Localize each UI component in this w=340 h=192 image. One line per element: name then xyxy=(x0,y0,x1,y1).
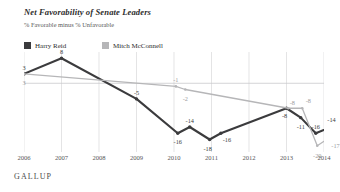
data-label: -16 xyxy=(223,136,231,143)
data-point[interactable] xyxy=(188,125,191,128)
data-point[interactable] xyxy=(301,107,304,110)
data-label: -8 xyxy=(282,112,287,119)
chart-title: Net Favorability of Senate Leaders xyxy=(24,7,151,17)
data-label: -8 xyxy=(290,99,295,106)
x-axis: 200620072008200920102011201220132014 xyxy=(24,152,324,166)
x-tick-2006: 2006 xyxy=(17,154,30,161)
data-point[interactable] xyxy=(316,144,319,147)
data-label: -8 xyxy=(306,97,311,104)
data-label: -11 xyxy=(297,122,305,129)
data-point[interactable] xyxy=(219,132,222,135)
legend-swatch-icon xyxy=(24,42,31,49)
data-label: -16 xyxy=(174,138,182,145)
data-label: -14 xyxy=(327,116,335,123)
data-label: 3 xyxy=(22,63,25,70)
x-tick-2012: 2012 xyxy=(242,154,255,161)
data-point[interactable] xyxy=(60,57,63,60)
legend-label: Mitch McConnell xyxy=(113,42,163,50)
data-label: 8 xyxy=(60,48,63,55)
data-label: -18 xyxy=(203,144,211,151)
data-label: -14 xyxy=(186,117,194,124)
x-tick-2011: 2011 xyxy=(205,154,218,161)
data-point[interactable] xyxy=(314,132,317,135)
legend-item-harry-reid[interactable]: Harry Reid xyxy=(24,34,66,44)
x-tick-2014: 2014 xyxy=(317,154,330,161)
data-point[interactable] xyxy=(175,85,178,88)
data-label: -5 xyxy=(134,88,139,95)
legend-item-mitch-mcconnell[interactable]: Mitch McConnell xyxy=(102,34,163,44)
legend-swatch-icon xyxy=(102,42,109,49)
x-tick-2013: 2013 xyxy=(280,154,293,161)
data-label: 3 xyxy=(22,78,25,85)
x-tick-2010: 2010 xyxy=(167,154,180,161)
data-label: -2 xyxy=(183,94,188,101)
chart-subtitle: % Favorable minus % Unfavorable xyxy=(24,21,114,28)
source-label: GALLUP xyxy=(14,172,52,181)
data-label: -1 xyxy=(173,76,178,83)
data-point[interactable] xyxy=(208,138,211,141)
data-label: -17 xyxy=(331,142,339,149)
data-point[interactable] xyxy=(176,132,179,135)
data-point[interactable] xyxy=(299,116,302,119)
data-point[interactable] xyxy=(184,88,187,91)
data-point[interactable] xyxy=(135,97,138,100)
x-tick-2009: 2009 xyxy=(130,154,143,161)
x-tick-2008: 2008 xyxy=(92,154,105,161)
data-label: -16 xyxy=(312,123,320,130)
x-tick-2007: 2007 xyxy=(55,154,68,161)
data-point[interactable] xyxy=(287,107,290,110)
